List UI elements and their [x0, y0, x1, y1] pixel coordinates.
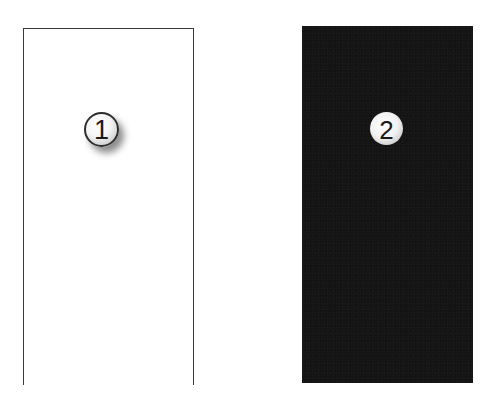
panel-1-outline [23, 28, 194, 385]
number-badge-1: 1 [84, 112, 119, 147]
badge-2-label: 2 [379, 117, 393, 143]
number-badge-2: 2 [370, 112, 403, 145]
panel-2-dark [302, 26, 473, 383]
badge-1-label: 1 [94, 117, 109, 144]
